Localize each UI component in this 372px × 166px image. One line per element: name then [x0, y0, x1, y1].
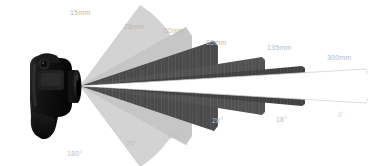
label-focal-135mm: 135mm: [267, 44, 291, 51]
label-angle-8: 8°: [338, 111, 345, 118]
lens-barrel: [68, 70, 82, 103]
label-focal-85mm: 85mm: [206, 39, 226, 46]
label-focal-50mm: 50mm: [164, 27, 184, 34]
label-angle-18: 18°: [276, 116, 287, 123]
label-angle-75: 75°: [126, 140, 137, 147]
label-angle-180: 180°: [67, 150, 82, 157]
diagram-canvas: [0, 0, 372, 166]
label-focal-28mm: 28mm: [124, 23, 144, 30]
lens-angle-of-view-diagram: 15mm 28mm 50mm 85mm 135mm 300mm 180° 75°…: [0, 0, 372, 166]
label-angle-47: 47°: [168, 133, 179, 140]
label-angle-28: 28°: [212, 117, 223, 124]
dslr-camera: [30, 53, 82, 139]
label-focal-15mm: 15mm: [70, 9, 90, 16]
label-focal-300mm: 300mm: [327, 54, 351, 61]
